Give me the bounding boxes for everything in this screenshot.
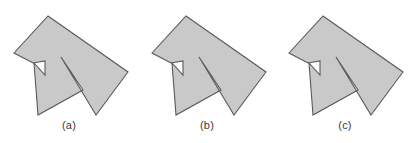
figure-panel-c: (c)	[276, 0, 414, 143]
panel-caption-b: (b)	[138, 118, 276, 132]
panel-caption-c: (c)	[276, 118, 414, 132]
polygon-diagram-a	[0, 0, 138, 120]
figure-panel-a: (a)	[0, 0, 138, 143]
polygon-fill-a	[14, 16, 128, 115]
polygon-fill-c	[289, 16, 403, 115]
figure-panel-b: (b)	[138, 0, 276, 143]
panel-caption-a: (a)	[0, 118, 138, 132]
polygon-fill-b	[152, 16, 266, 115]
polygon-diagram-b	[138, 0, 276, 120]
polygon-diagram-c	[276, 0, 414, 120]
polygon-fill-rule-figure: (a) (b) (c)	[0, 0, 415, 143]
